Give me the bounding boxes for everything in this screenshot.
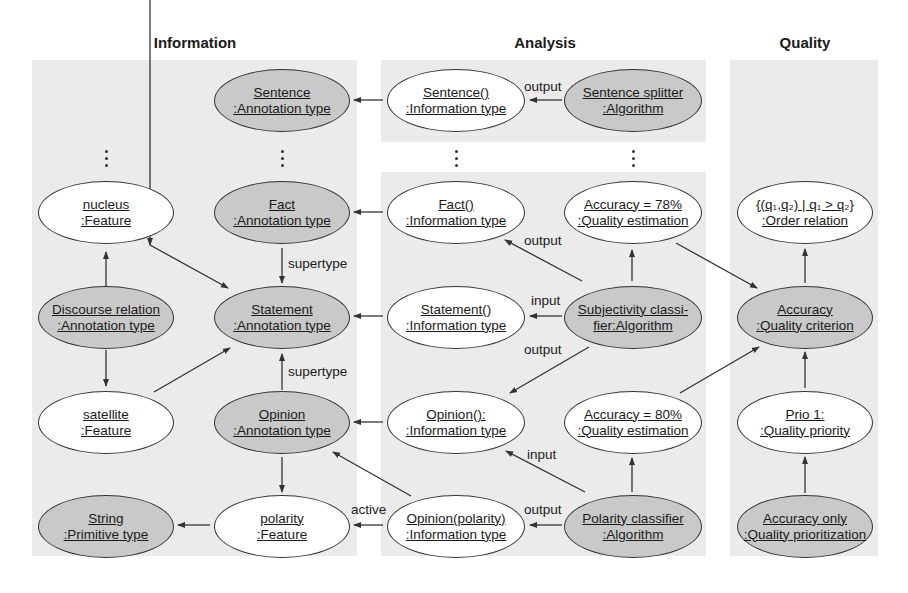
edge-acc78-to-criterion xyxy=(676,243,757,288)
node-accuracy-80[interactable]: Accuracy = 80% :Quality estimation xyxy=(564,391,702,454)
node-opinion-annotation[interactable]: Opinion :Annotation type xyxy=(214,391,350,454)
node-statement-info[interactable]: Statement() :Information type xyxy=(387,286,525,349)
node-type: :Annotation type xyxy=(233,101,331,117)
ellipsis-dots xyxy=(455,150,459,171)
edge-label-supertype: supertype xyxy=(288,256,347,271)
node-label: Sentence xyxy=(253,85,310,101)
node-label: String xyxy=(88,511,123,527)
node-type: :Quality estimation xyxy=(577,423,688,439)
node-label: polarity xyxy=(260,511,304,527)
node-opinion-info[interactable]: Opinion(): :Information type xyxy=(387,391,525,454)
node-label: Polarity classifier xyxy=(582,511,683,527)
node-accuracy-78[interactable]: Accuracy = 78% :Quality estimation xyxy=(564,181,702,244)
edge-label-output: output xyxy=(524,233,562,248)
node-label: satellite xyxy=(83,407,129,423)
node-sentence-splitter[interactable]: Sentence splitter :Algorithm xyxy=(564,69,702,132)
node-label: Subjectivity classi- xyxy=(578,302,688,318)
node-type: :Annotation type xyxy=(233,318,331,334)
ellipsis-dots xyxy=(105,150,109,171)
node-type: :Information type xyxy=(406,101,507,117)
node-fact-annotation[interactable]: Fact :Annotation type xyxy=(214,181,350,244)
node-type: :Feature xyxy=(81,423,131,439)
edge-nucleus-to-statement xyxy=(150,245,228,288)
node-label: Accuracy = 78% xyxy=(584,197,682,213)
node-label: Accuracy = 80% xyxy=(584,407,682,423)
node-label: Statement xyxy=(251,302,313,318)
edge-label-input: input xyxy=(527,447,556,462)
node-type: :Information type xyxy=(406,318,507,334)
edge-label-output: output xyxy=(524,79,562,94)
node-satellite-feature[interactable]: satellite :Feature xyxy=(38,391,174,454)
node-prio-1[interactable]: Prio 1: :Quality priority xyxy=(737,391,873,454)
node-type: :Annotation type xyxy=(57,318,155,334)
node-accuracy-criterion[interactable]: Accuracy :Quality criterion xyxy=(737,286,873,349)
node-type: :Quality prioritization xyxy=(744,527,866,543)
edge-opinion-polarity-to-opinion-annot xyxy=(333,452,411,496)
node-type: :Order relation xyxy=(762,213,848,229)
node-type: :Annotation type xyxy=(233,423,331,439)
node-order-relation[interactable]: {(q₁,q₂) | q₁ > q₂} :Order relation xyxy=(737,181,873,244)
node-type: :Quality priority xyxy=(760,423,850,439)
node-type: :Annotation type xyxy=(233,213,331,229)
edge-label-output: output xyxy=(524,502,562,517)
edge-label-active: active xyxy=(351,502,386,517)
node-label: Opinion(polarity) xyxy=(406,511,505,527)
node-type: :Algorithm xyxy=(603,101,664,117)
node-nucleus-feature[interactable]: nucleus :Feature xyxy=(38,181,174,244)
node-label: Fact() xyxy=(438,197,473,213)
edge-label-supertype: supertype xyxy=(288,364,347,379)
node-type: :Quality criterion xyxy=(756,318,854,334)
node-label: Accuracy only xyxy=(763,511,847,527)
node-label: {(q₁,q₂) | q₁ > q₂} xyxy=(756,197,854,213)
node-label: nucleus xyxy=(83,197,130,213)
node-statement-annotation[interactable]: Statement :Annotation type xyxy=(214,286,350,349)
edge-label-output: output xyxy=(524,342,562,357)
node-type: fier:Algorithm xyxy=(593,318,673,334)
node-label: Opinion xyxy=(259,407,306,423)
node-type: :Information type xyxy=(406,527,507,543)
node-sentence-info[interactable]: Sentence() :Information type xyxy=(387,69,525,132)
node-label: Sentence splitter xyxy=(583,85,684,101)
node-type: :Feature xyxy=(81,213,131,229)
ellipsis-dots xyxy=(632,150,636,171)
node-label: Opinion(): xyxy=(426,407,485,423)
node-accuracy-only[interactable]: Accuracy only :Quality prioritization xyxy=(737,495,873,558)
node-polarity-feature[interactable]: polarity :Feature xyxy=(214,495,350,558)
edge-acc80-to-criterion xyxy=(680,347,759,393)
node-label: Statement() xyxy=(421,302,492,318)
node-type: :Algorithm xyxy=(603,527,664,543)
node-type: :Quality estimation xyxy=(577,213,688,229)
node-label: Sentence() xyxy=(423,85,489,101)
node-subjectivity-classifier[interactable]: Subjectivity classi- fier:Algorithm xyxy=(564,286,702,349)
node-type: :Information type xyxy=(406,423,507,439)
node-fact-info[interactable]: Fact() :Information type xyxy=(387,181,525,244)
node-label: Prio 1: xyxy=(785,407,824,423)
node-sentence-annotation[interactable]: Sentence :Annotation type xyxy=(214,69,350,132)
node-opinion-polarity-info[interactable]: Opinion(polarity) :Information type xyxy=(387,495,525,558)
node-type: :Feature xyxy=(257,527,307,543)
node-label: Fact xyxy=(269,197,295,213)
node-discourse-relation[interactable]: Discourse relation :Annotation type xyxy=(38,286,174,349)
edge-label-input: input xyxy=(531,293,560,308)
node-polarity-classifier[interactable]: Polarity classifier :Algorithm xyxy=(564,495,702,558)
node-type: :Primitive type xyxy=(64,527,149,543)
node-type: :Information type xyxy=(406,213,507,229)
node-label: Accuracy xyxy=(777,302,833,318)
node-string-primitive[interactable]: String :Primitive type xyxy=(38,495,174,558)
node-label: Discourse relation xyxy=(52,302,160,318)
edge-satellite-to-statement xyxy=(154,348,230,392)
ellipsis-dots xyxy=(281,150,285,171)
